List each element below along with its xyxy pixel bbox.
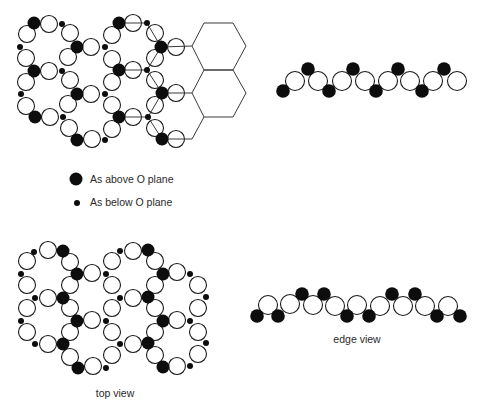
atom-below-plane xyxy=(18,271,24,277)
oxygen-atom xyxy=(104,347,121,364)
atom-below-plane xyxy=(144,67,150,73)
atom-below-plane xyxy=(271,309,285,323)
atom-below-plane xyxy=(60,114,66,120)
oxygen-atom xyxy=(62,25,79,42)
atom-above-plane xyxy=(142,244,155,257)
atom-below-plane xyxy=(102,91,108,97)
oxygen-atom xyxy=(448,72,467,91)
atom-above-plane xyxy=(391,62,405,76)
atom-diagram xyxy=(17,15,467,375)
atom-above-plane xyxy=(301,62,315,76)
atom-above-plane xyxy=(113,64,126,77)
atom-above-plane xyxy=(156,87,169,100)
atom-below-plane xyxy=(117,295,123,301)
oxygen-atom xyxy=(84,131,101,148)
atom-below-plane xyxy=(59,68,65,74)
atom-above-plane xyxy=(72,362,85,375)
atom-below-plane xyxy=(32,295,38,301)
legend-below-plane-marker-icon xyxy=(74,200,80,206)
lower-top-view xyxy=(18,242,209,375)
atom-below-plane xyxy=(103,318,109,324)
atom-below-plane xyxy=(18,318,24,324)
oxygen-atom xyxy=(169,358,186,375)
hexagon-ring xyxy=(192,70,246,117)
oxygen-atom xyxy=(42,109,59,126)
oxygen-atom xyxy=(125,290,142,307)
atom-above-plane xyxy=(29,111,42,124)
oxygen-atom xyxy=(84,265,101,282)
atom-above-plane xyxy=(113,111,126,124)
oxygen-atom xyxy=(62,72,79,89)
oxygen-atom xyxy=(18,50,35,67)
legend: As above O plane As below O plane xyxy=(70,173,174,209)
atom-below-plane xyxy=(117,341,123,347)
oxygen-atom xyxy=(104,324,121,341)
atom-below-plane xyxy=(117,248,123,254)
atom-below-plane xyxy=(362,309,376,323)
legend-below-label: As below O plane xyxy=(90,196,172,208)
atom-above-plane xyxy=(385,287,399,301)
oxygen-atom xyxy=(169,264,186,281)
atom-below-plane xyxy=(59,21,65,27)
atom-below-plane xyxy=(102,137,108,143)
atom-below-plane xyxy=(203,294,209,300)
atom-above-plane xyxy=(437,62,451,76)
oxygen-atom xyxy=(190,346,207,363)
edge-view-caption: edge view xyxy=(333,333,381,345)
atom-below-plane xyxy=(144,20,150,26)
legend-above-label: As above O plane xyxy=(90,173,174,185)
atom-below-plane xyxy=(31,249,37,255)
oxygen-atom xyxy=(104,277,121,294)
oxygen-atom xyxy=(19,277,36,294)
atom-above-plane xyxy=(71,41,84,54)
oxygen-atom xyxy=(85,358,102,375)
atom-above-plane xyxy=(71,315,84,328)
atom-above-plane xyxy=(346,62,360,76)
atom-below-plane xyxy=(145,114,151,120)
oxygen-atom xyxy=(40,242,57,259)
atom-below-plane xyxy=(187,271,193,277)
atom-below-plane xyxy=(32,341,38,347)
oxygen-atom xyxy=(125,243,142,260)
oxygen-atom xyxy=(190,300,207,317)
oxygen-atom xyxy=(333,72,352,91)
atom-above-plane xyxy=(113,17,126,30)
oxygen-atom xyxy=(394,297,413,316)
oxygen-atom xyxy=(19,253,36,270)
atom-above-plane xyxy=(317,287,331,301)
oxygen-atom xyxy=(104,253,121,270)
atom-above-plane xyxy=(71,88,84,101)
atom-below-plane xyxy=(187,363,193,369)
oxygen-atom xyxy=(40,290,57,307)
sheet-structure-figure: As above O plane As below O plane top vi… xyxy=(0,0,477,412)
atom-below-plane xyxy=(18,91,24,97)
atom-above-plane xyxy=(57,338,70,351)
atom-above-plane xyxy=(156,133,169,146)
lower-edge-view xyxy=(250,287,467,323)
atom-above-plane xyxy=(155,41,168,54)
oxygen-atom xyxy=(40,336,57,353)
oxygen-atom xyxy=(125,336,142,353)
atom-above-plane xyxy=(71,134,84,147)
atom-above-plane xyxy=(142,337,155,350)
oxygen-atom xyxy=(104,300,121,317)
atom-above-plane xyxy=(71,268,84,281)
atom-below-plane xyxy=(415,84,429,98)
atom-above-plane xyxy=(157,268,170,281)
oxygen-atom xyxy=(41,16,58,33)
hexagon-ring xyxy=(192,23,246,70)
atom-below-plane xyxy=(276,84,290,98)
upper-top-view xyxy=(17,15,246,148)
atom-below-plane xyxy=(102,44,108,50)
atom-above-plane xyxy=(157,361,170,374)
oxygen-atom xyxy=(190,277,207,294)
oxygen-atom xyxy=(41,63,58,80)
atom-below-plane xyxy=(103,365,109,371)
upper-edge-view xyxy=(276,62,466,98)
atom-above-plane xyxy=(28,17,41,30)
top-view-caption: top view xyxy=(96,387,135,399)
atom-below-plane xyxy=(203,340,209,346)
atom-below-plane xyxy=(369,84,383,98)
atom-above-plane xyxy=(157,315,170,328)
oxygen-atom xyxy=(83,86,100,103)
